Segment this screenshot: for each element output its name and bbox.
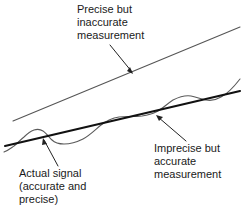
actual-signal-label: Actual signal (accurate and precise)	[19, 167, 86, 206]
imprecise-accurate-line-3: measurement	[154, 168, 221, 181]
imprecise-accurate-arrow	[156, 115, 186, 141]
precise-but-inaccurate-label: Precise but inaccurate measurement	[77, 3, 144, 42]
actual-signal-line-2: (accurate and	[19, 180, 86, 193]
precise-inaccurate-line-2: inaccurate	[77, 16, 144, 29]
actual-signal-line-1: Actual signal	[19, 167, 86, 180]
imprecise-accurate-line-2: accurate	[154, 155, 221, 168]
precise-inaccurate-line-3: measurement	[77, 29, 144, 42]
imprecise-accurate-line-1: Imprecise but	[154, 142, 221, 155]
precise-inaccurate-arrow	[110, 45, 133, 74]
precise-inaccurate-line-1: Precise but	[77, 3, 144, 16]
actual-signal-line-3: precise)	[19, 193, 86, 206]
actual-signal-line	[5, 91, 240, 146]
accuracy-precision-figure: Precise but inaccurate measurement Actua…	[0, 0, 250, 211]
imprecise-but-accurate-label: Imprecise but accurate measurement	[154, 142, 221, 181]
